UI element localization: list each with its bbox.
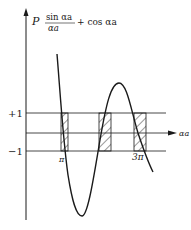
x-axis-label: αa xyxy=(179,129,189,138)
y-axis-label-prefix: P xyxy=(31,15,40,28)
y-axis-label-denominator: αa xyxy=(48,23,59,33)
allowed-band-3 xyxy=(134,113,146,151)
tick-pi-label: π xyxy=(58,155,65,164)
y-axis-label-suffix: + cos αa xyxy=(77,17,117,27)
y-axis-label-numerator: sin αa xyxy=(46,12,72,22)
level-minus-one-label: −1 xyxy=(8,146,23,157)
band-diagram: P sin αa αa + cos αa +1 −1 αa π 3π xyxy=(0,0,191,230)
y-axis-arrow-icon xyxy=(24,8,29,16)
x-axis-arrow-icon xyxy=(168,131,177,136)
level-plus-one-label: +1 xyxy=(8,108,23,119)
tick-3pi-label: 3π xyxy=(132,152,145,162)
y-axis xyxy=(24,8,29,220)
